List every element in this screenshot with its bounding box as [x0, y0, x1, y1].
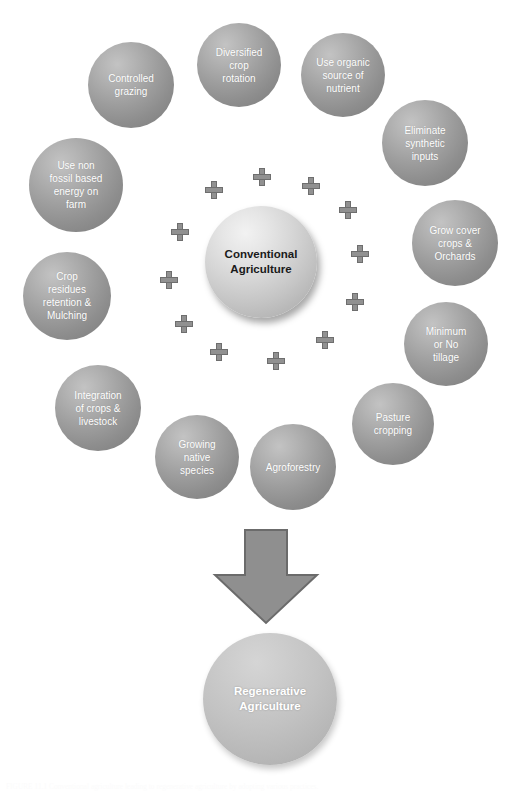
- practice-bubble-pasture-cropping: Pasture cropping: [352, 383, 434, 465]
- practice-bubble-non-fossil-energy: Use non fossil based energy on farm: [29, 138, 123, 232]
- practice-bubble-crop-residues-mulching: Crop residues retention & Mulching: [23, 252, 111, 340]
- practice-label: Crop residues retention & Mulching: [37, 270, 97, 322]
- practice-label: Use non fossil based energy on farm: [44, 159, 109, 211]
- practice-label: Eliminate synthetic inputs: [398, 124, 451, 163]
- outcome-bubble-label: Regenerative Agriculture: [228, 684, 312, 714]
- practice-label: Agroforestry: [260, 461, 326, 474]
- figure-caption: FIGURE 11.1 Conventional agriculture lea…: [6, 782, 506, 792]
- practice-label: Minimum or No tillage: [420, 325, 473, 364]
- figure-canvas: Controlled grazing Diversified crop rota…: [0, 0, 523, 797]
- practice-bubble-growing-native-species: Growing native species: [155, 415, 239, 499]
- plus-icon-4: [351, 245, 369, 263]
- practice-label: Diversified crop rotation: [210, 46, 269, 85]
- practice-bubble-diversified-crop-rotation: Diversified crop rotation: [197, 23, 281, 107]
- plus-icon-6: [316, 331, 334, 349]
- plus-icon-3: [339, 201, 357, 219]
- practice-bubble-integration-crops-livestock: Integration of crops & livestock: [55, 365, 141, 451]
- practice-bubble-use-organic-source: Use organic source of nutrient: [301, 33, 385, 117]
- center-bubble-conventional-agriculture: Conventional Agriculture: [205, 206, 317, 318]
- practice-label: Use organic source of nutrient: [310, 56, 375, 95]
- plus-icon-5: [346, 293, 364, 311]
- plus-icon-11: [171, 223, 189, 241]
- practice-bubble-minimum-or-no-tillage: Minimum or No tillage: [404, 302, 488, 386]
- plus-icon-7: [267, 352, 285, 370]
- practice-label: Integration of crops & livestock: [68, 389, 127, 428]
- practice-bubble-agroforestry: Agroforestry: [250, 424, 336, 510]
- outcome-bubble-regenerative-agriculture: Regenerative Agriculture: [203, 633, 337, 765]
- plus-icon-1: [253, 168, 271, 186]
- practice-bubble-grow-cover-crops: Grow cover crops & Orchards: [412, 200, 498, 286]
- center-bubble-label: Conventional Agriculture: [219, 247, 304, 277]
- plus-icon-8: [210, 343, 228, 361]
- practice-label: Controlled grazing: [102, 72, 160, 98]
- plus-icon-2: [302, 177, 320, 195]
- practice-label: Grow cover crops & Orchards: [423, 224, 486, 263]
- plus-icon-12: [205, 181, 223, 199]
- practice-bubble-controlled-grazing: Controlled grazing: [88, 42, 174, 128]
- practice-label: Pasture cropping: [368, 411, 418, 437]
- practice-bubble-eliminate-synthetic: Eliminate synthetic inputs: [382, 100, 468, 186]
- plus-icon-9: [175, 315, 193, 333]
- practice-label: Growing native species: [172, 438, 221, 477]
- down-arrow-icon: [212, 528, 320, 626]
- plus-icon-10: [160, 271, 178, 289]
